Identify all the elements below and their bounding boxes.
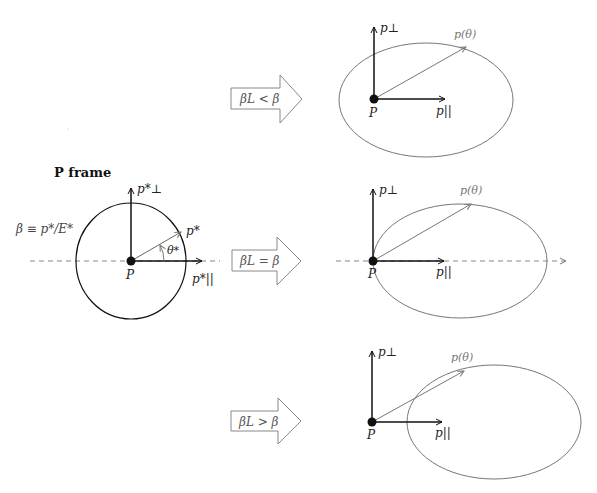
rest-frame bbox=[30, 188, 220, 319]
b3-point-label: P bbox=[366, 428, 376, 442]
angle-arc bbox=[160, 245, 164, 261]
rest-point-label: P bbox=[125, 268, 135, 282]
b3-perp-label: p⊥ bbox=[378, 345, 397, 359]
momentum-vector bbox=[374, 47, 466, 99]
rest-perp-label: p*⊥ bbox=[137, 182, 162, 196]
beta-definition: β ≡ p*/E* bbox=[15, 222, 73, 236]
b2-momentum-label: p(θ) bbox=[460, 184, 482, 197]
b1-perp-label: p⊥ bbox=[380, 21, 399, 35]
b2-par-label: p|| bbox=[436, 265, 452, 279]
rest-angle-label: θ* bbox=[167, 244, 180, 257]
condition-1-label: βL < β bbox=[239, 92, 280, 106]
b3-par-label: p|| bbox=[435, 426, 451, 440]
momentum-vector bbox=[372, 371, 464, 422]
boosted-frame-3 bbox=[368, 351, 582, 479]
frame-title: P frame bbox=[54, 165, 111, 180]
b1-point-label: P bbox=[368, 106, 378, 120]
b2-point-label: P bbox=[367, 267, 377, 281]
b1-par-label: p|| bbox=[436, 104, 452, 118]
point-p bbox=[127, 257, 136, 266]
speck bbox=[67, 128, 68, 129]
b1-momentum-label: p(θ) bbox=[454, 28, 476, 41]
momentum-vector bbox=[373, 204, 471, 261]
rest-momentum-label: p* bbox=[186, 224, 200, 238]
condition-2-label: βL = β bbox=[239, 254, 280, 268]
point-p bbox=[369, 257, 378, 266]
b2-perp-label: p⊥ bbox=[379, 183, 398, 197]
b3-momentum-label: p(θ) bbox=[451, 351, 473, 364]
point-p bbox=[370, 95, 379, 104]
boosted-frame-2 bbox=[336, 189, 566, 318]
boosted-frame-1 bbox=[339, 27, 513, 157]
momentum-ellipse bbox=[339, 43, 513, 157]
rest-par-label: p*|| bbox=[192, 272, 214, 286]
condition-3-label: βL > β bbox=[238, 415, 279, 429]
point-p bbox=[368, 418, 377, 427]
diagram-canvas: P frame β ≡ p*/E* P p*⊥ p*|| p* θ* βL < … bbox=[0, 0, 597, 493]
